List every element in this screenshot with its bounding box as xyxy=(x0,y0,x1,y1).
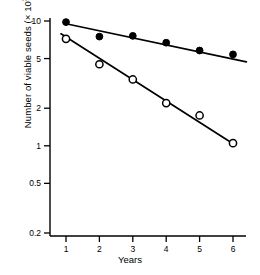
x-tick-label: 2 xyxy=(97,244,102,254)
data-point-filled-circles xyxy=(196,47,203,54)
fit-line-open-circles xyxy=(61,34,235,145)
x-tick-labels: 123456 xyxy=(64,244,236,254)
y-tick-marks xyxy=(44,21,50,233)
data-markers-group xyxy=(62,19,236,147)
y-tick-label: 2 xyxy=(36,103,41,113)
data-point-filled-circles xyxy=(63,19,70,26)
fit-line-filled-circles xyxy=(66,24,246,62)
axes-group xyxy=(50,18,246,236)
data-point-open-circles xyxy=(163,99,170,106)
data-point-filled-circles xyxy=(96,33,103,40)
y-axis-label: Number of viable seeds (× 103) xyxy=(21,0,33,146)
y-tick-label: 5 xyxy=(36,54,41,64)
data-point-open-circles xyxy=(96,61,103,68)
x-tick-label: 5 xyxy=(197,244,202,254)
figure: 105210.50.2 123456 Number of viable seed… xyxy=(0,0,260,275)
data-point-open-circles xyxy=(229,140,236,147)
data-point-open-circles xyxy=(62,35,69,42)
data-point-filled-circles xyxy=(163,39,170,46)
semilog-seed-viability-chart: 105210.50.2 123456 xyxy=(0,0,260,275)
fit-lines-group xyxy=(61,24,246,145)
y-tick-label: 0.2 xyxy=(29,228,41,238)
x-tick-label: 4 xyxy=(164,244,169,254)
x-tick-label: 3 xyxy=(130,244,135,254)
data-point-open-circles xyxy=(129,76,136,83)
x-tick-label: 6 xyxy=(231,244,236,254)
y-axis-label-text: Number of viable seeds (× 10 xyxy=(22,1,33,128)
x-axis-label: Years xyxy=(0,254,260,265)
data-point-filled-circles xyxy=(129,32,136,39)
x-tick-label: 1 xyxy=(64,244,69,254)
x-tick-marks xyxy=(66,236,233,242)
data-point-open-circles xyxy=(196,112,203,119)
y-axis-label-exponent: 3 xyxy=(21,0,28,1)
data-point-filled-circles xyxy=(230,51,237,58)
y-tick-label: 0.5 xyxy=(29,178,41,188)
y-tick-label: 1 xyxy=(36,141,41,151)
